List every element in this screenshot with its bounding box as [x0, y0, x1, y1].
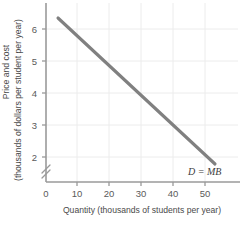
demand-curve-line	[58, 18, 215, 164]
chart-container: 6 5 4 3 2 0 10 20 30 40 50 D = MB Price …	[0, 0, 242, 225]
y-axis-title-line1: Price and cost	[1, 44, 11, 99]
x-tick-label-20: 20	[104, 188, 115, 199]
demand-curve-label: D = MB	[187, 166, 221, 177]
y-tick-label-3: 3	[32, 120, 37, 131]
x-tick-label-0: 0	[43, 188, 48, 199]
demand-curve-chart: 6 5 4 3 2 0 10 20 30 40 50 D = MB Price …	[0, 0, 242, 225]
y-tick-label-5: 5	[32, 56, 37, 67]
y-tick-label-4: 4	[32, 88, 37, 99]
x-tick-label-50: 50	[200, 188, 211, 199]
x-tick-label-10: 10	[72, 188, 83, 199]
gridlines	[46, 3, 238, 182]
y-axis-title-line2: (thousands of dollars per student per ye…	[13, 19, 23, 181]
y-tick-label-6: 6	[32, 24, 37, 35]
x-tick-label-30: 30	[136, 188, 147, 199]
x-axis-title: Quantity (thousands of students per year…	[63, 205, 221, 215]
x-tick-label-40: 40	[168, 188, 179, 199]
y-tick-label-2: 2	[32, 152, 37, 163]
